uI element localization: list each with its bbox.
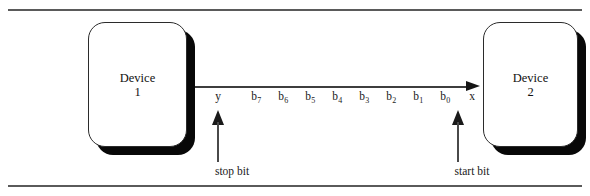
frame-label-subscript: 2 [392, 96, 396, 105]
frame-label-subscript: 4 [338, 96, 342, 105]
frame-label-b0: b0 [440, 90, 450, 102]
data-transmission-line [187, 86, 470, 88]
device-1-box: Device 1 [88, 22, 187, 147]
start-bit-arrow-icon [452, 110, 464, 162]
frame-label-b7: b7 [251, 90, 261, 102]
device-1-label: Device [120, 71, 155, 85]
frame-label-y: y [215, 90, 221, 102]
frame-label-subscript: 5 [311, 96, 315, 105]
frame-label-subscript: 3 [365, 96, 369, 105]
device-1-index: 1 [134, 85, 140, 99]
device-2-index: 2 [527, 85, 533, 99]
serial-transmission-diagram: Device 1 Device 2 yb7b6b5b4b3b2b1b0x sto… [0, 0, 590, 196]
data-line-arrowhead-icon [466, 81, 480, 91]
device-2-box: Device 2 [483, 22, 578, 147]
device-2-label: Device [513, 71, 548, 85]
stop-bit-arrow-icon [212, 110, 224, 162]
frame-label-subscript: 0 [446, 96, 450, 105]
frame-label-b1: b1 [413, 90, 423, 102]
stop-bit-label: stop bit [215, 165, 249, 177]
start-bit-label: start bit [455, 165, 490, 177]
frame-label-subscript: 7 [257, 96, 261, 105]
frame-label-subscript: 1 [419, 96, 423, 105]
frame-label-x: x [469, 90, 475, 102]
top-rule [8, 9, 582, 11]
frame-label-b6: b6 [278, 90, 288, 102]
frame-label-b3: b3 [359, 90, 369, 102]
frame-label-b5: b5 [305, 90, 315, 102]
frame-label-subscript: 6 [284, 96, 288, 105]
frame-label-b4: b4 [332, 90, 342, 102]
bottom-rule [8, 185, 582, 187]
frame-label-b2: b2 [386, 90, 396, 102]
